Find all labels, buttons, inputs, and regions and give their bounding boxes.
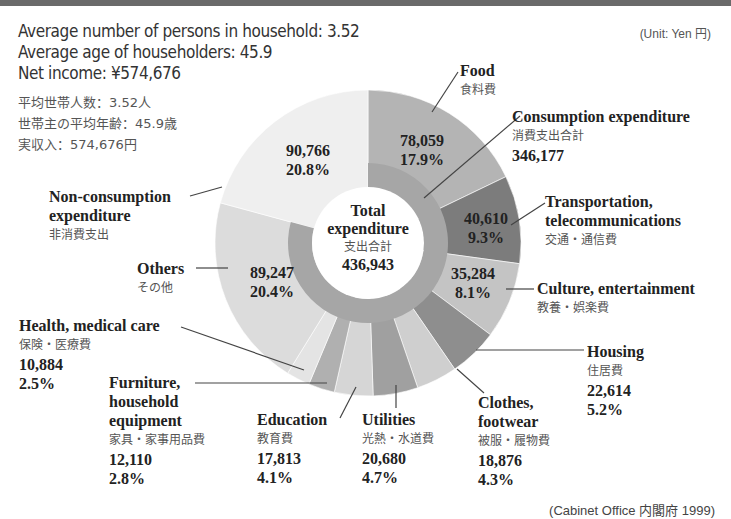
income-stat: Net income: ¥574,676 [18, 63, 181, 84]
persons-stat-jp: 平均世帯人数：3.52人 [18, 92, 151, 113]
slice-label-food: 78,059 17.9% [382, 131, 462, 169]
leader-nonconsumption [190, 187, 222, 196]
source-citation: (Cabinet Office 内閣府 1999) [549, 500, 715, 519]
label-clothes: Clothes, footwear 被服・履物費 18,876 4.3% [478, 393, 550, 489]
age-stat-jp: 世帯主の平均年齢：45.9歳 [18, 113, 177, 134]
leader-food [432, 72, 458, 112]
label-health: Health, medical care 保険・医療費 10,884 2.5% [19, 316, 160, 393]
slice-label-nonconsumption: 90,766 20.8% [268, 141, 348, 179]
label-food: Food 食料費 [460, 61, 496, 100]
slice-label-others: 89,247 20.4% [232, 263, 312, 301]
label-consumption: Consumption expenditure 消費支出合計 346,177 [512, 107, 690, 165]
income-stat-jp: 実収入：574,676円 [18, 134, 137, 155]
label-nonconsumption: Non-consumption expenditure 非消費支出 [49, 187, 171, 245]
label-housing: Housing 住居費 22,614 5.2% [587, 342, 644, 419]
label-transport: Transportation, telecommunications 交通・通信… [545, 192, 681, 250]
slice-label-transport: 40,610 9.3% [446, 209, 526, 247]
unit-label: (Unit: Yen 円) [640, 24, 711, 41]
label-utilities: Utilities 光熱・水道費 20,680 4.7% [362, 410, 434, 487]
persons-stat: Average number of persons in household: … [18, 21, 359, 42]
label-education: Education 教育費 17,813 4.1% [257, 410, 327, 487]
center-title-2: expenditure [313, 220, 423, 238]
center-total: 436,943 [313, 256, 423, 274]
center-title-1: Total [313, 202, 423, 220]
slice-label-culture: 35,284 8.1% [433, 264, 513, 302]
label-culture: Culture, entertainment 教養・娯楽費 [537, 279, 695, 318]
center-label: Total expenditure 支出合計 436,943 [313, 202, 423, 274]
label-others: Others その他 [137, 259, 184, 298]
leader-clothes [457, 369, 484, 393]
center-title-jp: 支出合計 [313, 238, 423, 256]
age-stat: Average age of householders: 45.9 [18, 42, 272, 63]
